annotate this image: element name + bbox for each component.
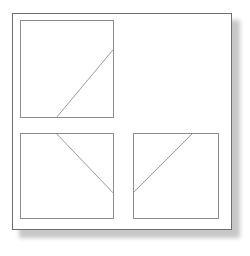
panel-bottom-left-diagonal-line xyxy=(21,134,113,218)
outer-frame xyxy=(12,13,232,230)
panel-bottom-right-diagonal-line xyxy=(134,134,218,218)
panel-bottom-right[interactable] xyxy=(133,133,219,219)
panel-bottom-left[interactable] xyxy=(20,133,114,219)
panel-top-right-empty xyxy=(126,20,220,118)
panel-top-left[interactable] xyxy=(20,20,114,118)
figure-canvas xyxy=(0,0,250,256)
panel-top-left-diagonal-line xyxy=(21,21,113,117)
